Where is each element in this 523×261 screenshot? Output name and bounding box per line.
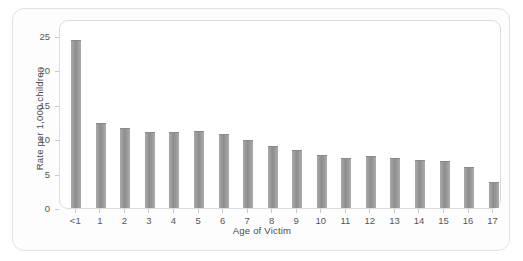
x-tick-label: 11: [333, 215, 358, 226]
bar[interactable]: [489, 182, 499, 208]
x-tick-mark: [296, 209, 297, 213]
bar[interactable]: [145, 132, 155, 208]
x-tick: 13: [382, 209, 407, 231]
bar[interactable]: [243, 140, 253, 208]
x-tick-label: 16: [456, 215, 481, 226]
x-tick-label: 1: [88, 215, 113, 226]
y-tick-label: 10: [39, 134, 50, 145]
x-tick: 6: [210, 209, 235, 231]
bar[interactable]: [268, 146, 278, 208]
plot-frame: [59, 20, 501, 209]
x-tick-mark: [468, 209, 469, 213]
x-tick-label: 4: [161, 215, 186, 226]
y-tick-label: 5: [45, 169, 50, 180]
bar[interactable]: [71, 40, 81, 208]
x-tick: 17: [480, 209, 505, 231]
y-tick-label: 25: [39, 31, 50, 42]
x-tick: 5: [186, 209, 211, 231]
x-tick: 2: [112, 209, 137, 231]
bar-slot: [89, 21, 114, 208]
x-tick: 3: [137, 209, 162, 231]
x-tick-label: 17: [480, 215, 505, 226]
bar[interactable]: [440, 161, 450, 208]
x-tick-label: 3: [137, 215, 162, 226]
x-tick-mark: [320, 209, 321, 213]
x-tick: 1: [88, 209, 113, 231]
x-tick: 12: [358, 209, 383, 231]
x-tick-label: 9: [284, 215, 309, 226]
bar-slot: [211, 21, 236, 208]
x-tick-label: 8: [259, 215, 284, 226]
x-tick: 8: [259, 209, 284, 231]
x-tick: 11: [333, 209, 358, 231]
bar[interactable]: [120, 128, 130, 208]
y-tick-label: 15: [39, 100, 50, 111]
x-tick: <1: [63, 209, 88, 231]
x-tick: 7: [235, 209, 260, 231]
bar-slot: [113, 21, 138, 208]
plot-area: [60, 21, 500, 208]
bar[interactable]: [390, 158, 400, 208]
bar-slot: [481, 21, 506, 208]
bar-slot: [285, 21, 310, 208]
bar[interactable]: [219, 134, 229, 208]
y-tick-label: 0: [45, 203, 50, 214]
bar-slot: [408, 21, 433, 208]
x-tick-label: 14: [407, 215, 432, 226]
bar[interactable]: [464, 167, 474, 208]
bar-slot: [334, 21, 359, 208]
x-tick-label: 7: [235, 215, 260, 226]
x-tick: 14: [407, 209, 432, 231]
x-tick-mark: [124, 209, 125, 213]
bar[interactable]: [366, 156, 376, 208]
x-tick-label: 10: [309, 215, 334, 226]
bar-slot: [236, 21, 261, 208]
bar-slot: [187, 21, 212, 208]
y-tick-label: 20: [39, 65, 50, 76]
bar[interactable]: [415, 160, 425, 208]
x-tick-mark: [173, 209, 174, 213]
bar[interactable]: [194, 131, 204, 208]
x-tick-mark: [492, 209, 493, 213]
bar-slot: [310, 21, 335, 208]
bar[interactable]: [292, 150, 302, 208]
x-tick-mark: [418, 209, 419, 213]
x-tick: 15: [431, 209, 456, 231]
x-tick-mark: [443, 209, 444, 213]
bar-slot: [138, 21, 163, 208]
x-tick-mark: [345, 209, 346, 213]
bar-slot: [162, 21, 187, 208]
x-tick-label: 6: [210, 215, 235, 226]
x-tick-label: 5: [186, 215, 211, 226]
x-tick-mark: [271, 209, 272, 213]
y-tick-mark: [55, 209, 59, 210]
x-tick-mark: [247, 209, 248, 213]
x-tick-mark: [148, 209, 149, 213]
bar-slot: [359, 21, 384, 208]
bar[interactable]: [169, 132, 179, 208]
x-tick-label: 12: [358, 215, 383, 226]
x-tick-mark: [394, 209, 395, 213]
bar-slot: [64, 21, 89, 208]
x-tick-mark: [198, 209, 199, 213]
x-tick-label: 13: [382, 215, 407, 226]
x-tick: 10: [309, 209, 334, 231]
bar-slot: [383, 21, 408, 208]
bar[interactable]: [341, 158, 351, 208]
x-tick-mark: [99, 209, 100, 213]
chart-card: Rate per 1,000 children Age of Victim 05…: [12, 8, 510, 251]
x-tick: 4: [161, 209, 186, 231]
x-tick-mark: [222, 209, 223, 213]
x-tick-mark: [369, 209, 370, 213]
bar-slot: [432, 21, 457, 208]
x-tick: 9: [284, 209, 309, 231]
x-tick-label: <1: [63, 215, 88, 226]
x-tick-mark: [75, 209, 76, 213]
bar[interactable]: [96, 123, 106, 208]
bar[interactable]: [317, 155, 327, 208]
x-tick-label: 15: [431, 215, 456, 226]
x-tick-label: 2: [112, 215, 137, 226]
bar-slot: [457, 21, 482, 208]
x-tick: 16: [456, 209, 481, 231]
bar-slot: [260, 21, 285, 208]
